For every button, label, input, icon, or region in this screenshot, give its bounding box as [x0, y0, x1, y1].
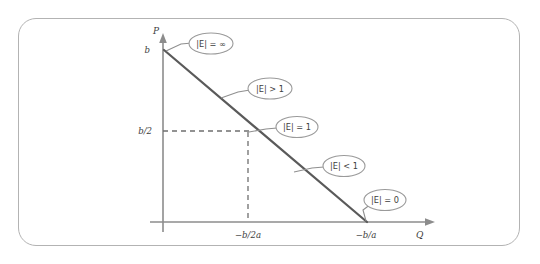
q-axis-arrowhead: [425, 218, 435, 226]
callout-e-less-than-one: |E| < 1: [294, 156, 365, 177]
callout-label-e-equals-one: |E| = 1: [283, 122, 311, 132]
callout-e-infinite: |E| = ∞: [166, 33, 233, 54]
callout-e-greater-than-one: |E| > 1: [221, 78, 292, 99]
q-axis-label: Q: [416, 230, 424, 240]
tick-label-neg-b-over-2a: −b/2a: [235, 230, 261, 240]
demand-elasticity-plot: P Q b b/2 −b/2a −b/a |E| = ∞ |E| > 1 |E|…: [0, 0, 540, 264]
callout-e-equals-zero: |E| = 0: [363, 190, 406, 222]
leader-line-e-infinite: [166, 43, 192, 51]
p-axis-arrowhead: [159, 33, 167, 43]
figure-root: P Q b b/2 −b/2a −b/a |E| = ∞ |E| > 1 |E|…: [0, 0, 540, 264]
leader-line-e-greater-than-one: [221, 90, 250, 98]
callout-label-e-greater-than-one: |E| > 1: [256, 84, 284, 94]
tick-label-b: b: [144, 45, 150, 55]
callout-e-equals-one: |E| = 1: [249, 117, 318, 138]
leader-line-e-equals-one: [249, 128, 277, 132]
callout-label-e-infinite: |E| = ∞: [196, 39, 226, 49]
tick-label-neg-b-over-a: −b/a: [356, 230, 377, 240]
tick-label-b-over-2: b/2: [138, 126, 152, 136]
p-axis-label: P: [152, 26, 160, 36]
leader-line-e-less-than-one: [294, 167, 324, 172]
callout-label-e-less-than-one: |E| < 1: [330, 161, 358, 171]
callout-label-e-equals-zero: |E| = 0: [371, 195, 399, 205]
demand-curve-line: [164, 50, 367, 222]
